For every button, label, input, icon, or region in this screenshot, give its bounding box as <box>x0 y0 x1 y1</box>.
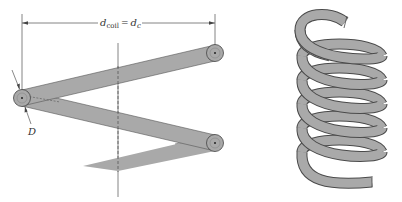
leader-arrow-top-icon <box>17 84 20 90</box>
wire-end-bottom-right <box>207 135 224 152</box>
coil-geometry-panel: dcoil=dc <box>12 14 224 197</box>
wire-end-left <box>14 90 31 107</box>
spring-diagram: dcoil=dc <box>0 0 402 202</box>
dimension-arrow-left-icon <box>22 21 28 24</box>
wire-segment-diagonal-up <box>22 45 215 106</box>
helical-spring-panel <box>300 14 382 187</box>
wire-diameter-label: D <box>27 126 36 137</box>
coil-diameter-label: dcoil=dc <box>100 17 141 30</box>
wire-end-top-right <box>207 45 224 62</box>
dimension-arrow-right-icon <box>209 21 215 24</box>
